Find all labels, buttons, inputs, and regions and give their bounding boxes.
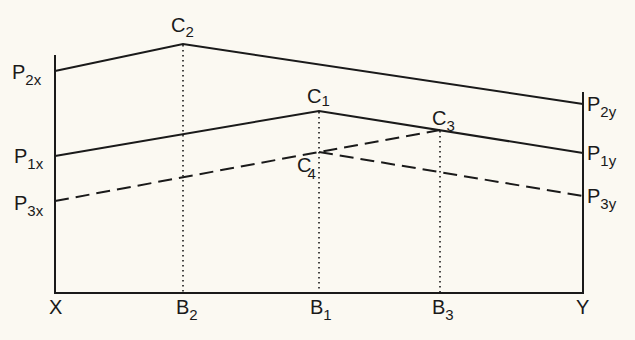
label-b3: B3 [432, 296, 454, 323]
label-p3y: P3y [587, 185, 617, 212]
label-p1y: P1y [587, 142, 617, 169]
label-b1: B1 [310, 296, 332, 323]
line-p3 [55, 130, 440, 201]
label-c1: C1 [307, 85, 330, 109]
label-x: X [49, 296, 62, 318]
label-c4: C4 [297, 154, 316, 182]
label-p1x: P1x [14, 145, 44, 172]
label-p2y: P2y [587, 93, 617, 120]
line-p3-right [319, 152, 583, 196]
label-b2: B2 [176, 296, 198, 323]
label-p3x: P3x [14, 192, 44, 219]
price-diagram: P2x P1x P3x P2y P1y P3y C2 C1 C3 C4 X B2… [0, 0, 635, 340]
label-p2x: P2x [12, 61, 42, 88]
label-y: Y [576, 296, 589, 318]
label-c2: C2 [171, 14, 194, 40]
